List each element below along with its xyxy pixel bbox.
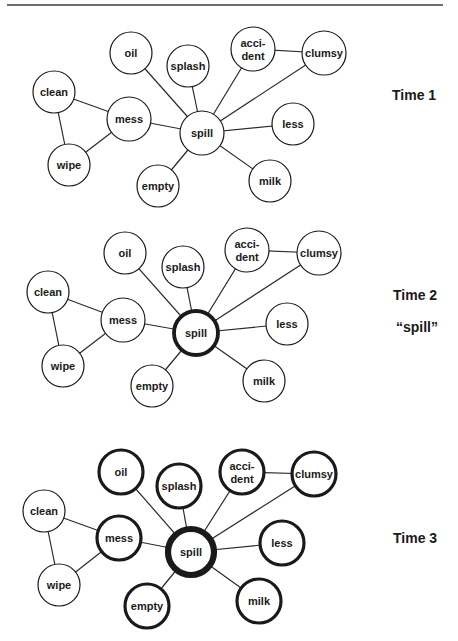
node-mess: mess	[101, 298, 145, 342]
node-label: empty	[142, 180, 175, 192]
time-2-label: Time 2	[393, 288, 437, 302]
node-label: clean	[30, 505, 58, 517]
node-empty: empty	[131, 365, 173, 407]
node-label: clean	[34, 286, 62, 298]
node-empty: empty	[137, 165, 179, 207]
panel-time1: oilsplashacci-dentclumsycleanmessspillle…	[33, 27, 346, 207]
node-label: dent	[230, 473, 254, 485]
node-oil: oil	[110, 32, 152, 74]
node-label: splash	[166, 261, 201, 273]
node-label: oil	[125, 47, 138, 59]
node-label: less	[276, 318, 297, 330]
node-clean: clean	[23, 490, 65, 532]
node-oil: oil	[104, 232, 146, 274]
node-label: milk	[248, 595, 271, 607]
node-spill: spill	[168, 529, 214, 575]
node-accident: acci-dent	[231, 27, 275, 71]
panel-time3: oilsplashacci-dentclumsycleanmessspillle…	[23, 450, 336, 628]
node-spill: spill	[180, 111, 224, 155]
node-label: wipe	[46, 579, 71, 591]
node-label: splash	[171, 60, 206, 72]
semantic-network-figure: oilsplashacci-dentclumsycleanmessspillle…	[0, 0, 458, 641]
node-label: oil	[115, 466, 128, 478]
node-label: clumsy	[295, 468, 334, 480]
node-label: acci-	[229, 460, 254, 472]
node-label: milk	[259, 175, 282, 187]
node-oil: oil	[99, 450, 143, 494]
network-diagram: oilsplashacci-dentclumsycleanmessspillle…	[0, 0, 458, 641]
node-empty: empty	[125, 584, 169, 628]
node-label: less	[282, 118, 303, 130]
node-label: spill	[191, 127, 213, 139]
node-label: acci-	[240, 37, 265, 49]
node-spill: spill	[174, 311, 218, 355]
node-label: oil	[119, 247, 132, 259]
node-label: mess	[109, 314, 137, 326]
node-mess: mess	[97, 516, 141, 560]
node-wipe: wipe	[48, 144, 90, 186]
node-wipe: wipe	[42, 345, 84, 387]
time-3-label: Time 3	[393, 531, 437, 545]
node-accident: acci-dent	[225, 228, 269, 272]
node-label: acci-	[234, 238, 259, 250]
node-splash: splash	[167, 45, 209, 87]
node-clean: clean	[33, 71, 75, 113]
node-label: clean	[40, 86, 68, 98]
panel-time2: oilsplashacci-dentclumsycleanmessspillle…	[27, 228, 341, 407]
node-label: spill	[180, 546, 202, 558]
node-clean: clean	[27, 271, 69, 313]
node-milk: milk	[243, 360, 285, 402]
node-label: wipe	[56, 159, 81, 171]
node-clumsy: clumsy	[302, 31, 346, 75]
node-label: clumsy	[305, 47, 344, 59]
node-clumsy: clumsy	[292, 452, 336, 496]
node-label: mess	[115, 113, 143, 125]
node-splash: splash	[157, 464, 201, 508]
node-label: spill	[185, 327, 207, 339]
node-label: wipe	[50, 360, 75, 372]
node-label: milk	[253, 375, 276, 387]
node-label: dent	[241, 50, 265, 62]
node-splash: splash	[162, 246, 204, 288]
node-label: empty	[136, 380, 169, 392]
top-rule-divider	[7, 4, 443, 6]
node-less: less	[266, 303, 308, 345]
node-label: clumsy	[300, 247, 339, 259]
node-milk: milk	[249, 160, 291, 202]
node-label: empty	[131, 600, 164, 612]
node-label: mess	[105, 532, 133, 544]
node-label: dent	[235, 251, 259, 263]
node-less: less	[260, 521, 304, 565]
node-label: splash	[162, 480, 197, 492]
node-clumsy: clumsy	[297, 231, 341, 275]
node-less: less	[272, 103, 314, 145]
node-milk: milk	[237, 579, 281, 623]
node-mess: mess	[107, 97, 151, 141]
time-2-cue-word-label: “spill”	[396, 320, 438, 334]
node-label: less	[271, 537, 292, 549]
node-wipe: wipe	[38, 564, 80, 606]
time-1-label: Time 1	[392, 88, 436, 102]
node-accident: acci-dent	[220, 450, 264, 494]
